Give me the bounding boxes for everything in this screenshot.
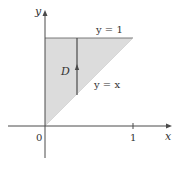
origin-label: 0 [36,132,42,143]
x-axis-arrow-icon [166,124,172,129]
x-axis-label: x [165,130,172,143]
region-diagram: y x 0 1 y = 1 y = x D [0,0,177,172]
top-line-label: y = 1 [95,24,123,35]
region-label: D [60,65,70,78]
diagonal-line-label: y = x [93,79,120,90]
y-axis-label: y [34,5,42,18]
y-axis-arrow-icon [43,10,48,16]
x-tick-label-1: 1 [130,132,136,143]
